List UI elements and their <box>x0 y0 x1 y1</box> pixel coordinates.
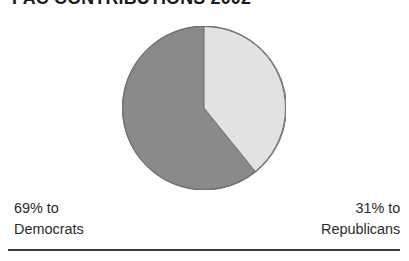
pie-chart <box>122 26 286 190</box>
pie-chart-figure: PAC CONTRIBUTIONS 2002 69% to Democrats … <box>0 0 409 261</box>
page-title: PAC CONTRIBUTIONS 2002 <box>12 0 251 9</box>
legend-republicans-percent: 31% to <box>321 197 400 218</box>
legend-democrats: 69% to Democrats <box>14 197 84 239</box>
legend-republicans-label: Republicans <box>321 218 400 239</box>
legend-democrats-percent: 69% to <box>14 197 84 218</box>
legend-republicans: 31% to Republicans <box>321 197 400 239</box>
horizontal-divider <box>8 249 400 251</box>
pie-chart-svg <box>122 26 286 190</box>
legend-democrats-label: Democrats <box>14 218 84 239</box>
